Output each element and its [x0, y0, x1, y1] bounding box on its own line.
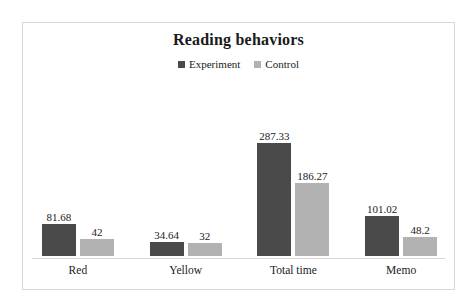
bar-value-label: 186.27	[285, 171, 339, 182]
bar-value-label: 101.02	[355, 204, 409, 215]
category-label-red: Red	[24, 264, 132, 276]
category-label-total-time: Total time	[240, 264, 348, 276]
bar-experiment-yellow[interactable]	[150, 242, 184, 256]
bar-control-total-time[interactable]	[295, 183, 329, 256]
bar-value-label: 287.33	[247, 131, 301, 142]
bar-control-memo[interactable]	[403, 237, 437, 256]
bar-control-red[interactable]	[80, 239, 114, 256]
bar-experiment-total-time[interactable]	[257, 143, 291, 256]
bar-control-yellow[interactable]	[188, 243, 222, 256]
category-label-memo: Memo	[347, 264, 455, 276]
bar-experiment-memo[interactable]	[365, 216, 399, 256]
category-label-yellow: Yellow	[132, 264, 240, 276]
bar-value-label: 48.2	[393, 225, 447, 236]
bar-value-label: 42	[70, 227, 124, 238]
bar-value-label: 32	[178, 231, 232, 242]
bar-value-label: 81.68	[32, 212, 86, 223]
x-axis-line	[32, 258, 445, 259]
chart-screenshot: Reading behaviors Experiment Control 81.…	[0, 0, 476, 303]
plot-area: 81.6842Red34.6432Yellow287.33186.27Total…	[24, 23, 453, 289]
chart-frame: Reading behaviors Experiment Control 81.…	[22, 22, 455, 290]
